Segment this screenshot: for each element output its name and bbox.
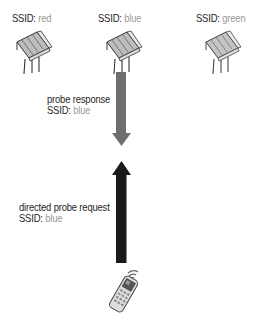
probe-response-arrow-down-icon [111,72,133,148]
ssid-key: SSID: [19,212,43,224]
ssid-value: red [38,12,51,24]
probe-response-label: probe response SSID: blue [47,94,110,116]
ssid-value: green [222,12,245,24]
probe-request-arrow-up-icon [111,161,133,263]
ap-green-label: SSID: green [196,13,246,24]
access-point-icon [202,30,242,74]
ssid-value: blue [73,104,90,116]
ap-blue-label: SSID: blue [98,13,141,24]
ssid-key: SSID: [98,12,122,24]
ssid-key: SSID: [12,12,36,24]
ssid-key: SSID: [47,104,71,116]
ssid-value: blue [124,12,141,24]
access-point-icon [13,30,53,74]
access-point-icon [103,30,143,74]
probe-request-label: directed probe request SSID: blue [19,202,110,224]
ssid-key: SSID: [196,12,220,24]
ap-red-label: SSID: red [12,13,51,24]
wireless-handheld-device-icon [103,268,143,318]
ssid-value: blue [45,212,62,224]
